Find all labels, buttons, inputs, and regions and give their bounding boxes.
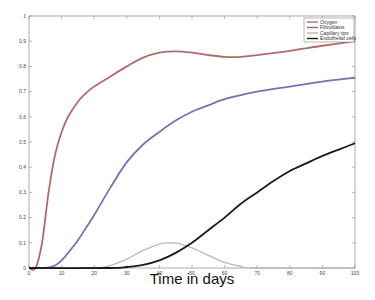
series-fibroblasts-line — [29, 78, 355, 268]
x-tick-label: 30 — [124, 270, 130, 276]
legend: OxygenFibroblastsCapillary tipsEndotheli… — [304, 18, 357, 42]
x-tick-label: 10 — [59, 270, 65, 276]
x-axis-label: Time in days — [150, 270, 234, 287]
y-tick-label: 0.6 — [19, 114, 26, 120]
series-capillary-tips-line — [29, 243, 355, 268]
x-tick-label: 20 — [91, 270, 97, 276]
y-tick-label: 0.9 — [19, 38, 26, 44]
x-tick-label: 90 — [320, 270, 326, 276]
x-tick-label: 100 — [351, 270, 360, 276]
x-tick-label: 0 — [28, 270, 31, 276]
series-group — [29, 41, 355, 270]
line-chart: 010203040506070809010000.10.20.30.40.50.… — [0, 0, 375, 300]
series-oxygen-line — [29, 41, 355, 270]
series-endothelial-cells-line — [29, 143, 355, 268]
y-tick-label: 0.5 — [19, 139, 26, 145]
x-tick-label: 70 — [254, 270, 260, 276]
y-tick-label: 0.4 — [19, 164, 26, 170]
y-tick-label: 0.1 — [19, 240, 26, 246]
y-tick-label: 0.7 — [19, 88, 26, 94]
plot-frame — [29, 16, 355, 268]
y-tick-label: 1 — [23, 13, 26, 19]
y-tick-label: 0.2 — [19, 214, 26, 220]
y-tick-label: 0.8 — [19, 63, 26, 69]
y-tick-label: 0 — [23, 265, 26, 271]
legend-label: Endothelial cells — [320, 35, 357, 41]
y-tick-label: 0.3 — [19, 189, 26, 195]
x-tick-label: 80 — [287, 270, 293, 276]
